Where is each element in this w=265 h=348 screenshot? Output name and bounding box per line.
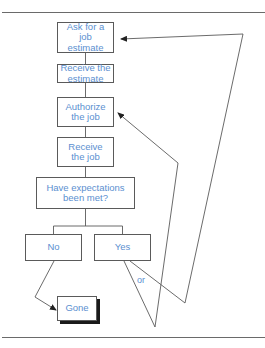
node-yes: Yes [94,234,151,261]
node-label: Receive the job [66,142,106,163]
node-label: No [47,242,59,253]
node-expectations-decision: Have expectations been met? [36,177,135,209]
node-label: Have expectations been met? [41,183,131,204]
node-receive-estimate: Receive the estimate [57,64,114,83]
node-authorize-job: Authorize the job [57,97,114,127]
node-label: Authorize the job [62,102,110,123]
node-label: Gone [65,303,88,314]
node-no: No [25,234,82,261]
node-receive-job: Receive the job [57,137,114,167]
node-gone: Gone [57,296,97,321]
node-ask-for-estimate: Ask for a job estimate [57,22,114,53]
node-label: Receive the estimate [58,63,113,84]
or-label: or [137,275,145,285]
node-label: Yes [115,242,131,253]
node-label: Ask for a job estimate [62,22,110,54]
connectors [0,0,265,348]
